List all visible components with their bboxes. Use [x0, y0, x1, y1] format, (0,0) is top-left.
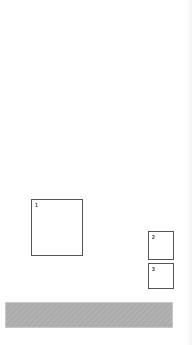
numbered-box-1: 1 [31, 199, 83, 256]
box-label-1: 1 [35, 203, 38, 208]
numbered-box-3: 3 [148, 263, 174, 289]
box-label-2: 2 [152, 235, 155, 240]
gray-hatched-bar [5, 302, 173, 328]
box-label-3: 3 [152, 267, 155, 272]
page-edge-shadow [186, 0, 192, 345]
numbered-box-2: 2 [148, 231, 174, 260]
